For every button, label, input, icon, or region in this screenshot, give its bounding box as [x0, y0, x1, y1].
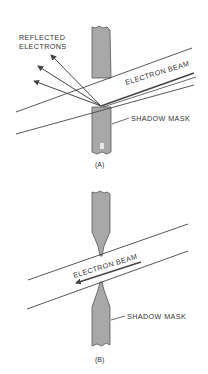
figure-a: REFLECTED ELECTRONS ELECTRON BEAM SHADOW…: [16, 26, 196, 169]
mask-highlight: [100, 143, 104, 149]
figure-b: ELECTRON BEAM SHADOW MASK (B): [27, 191, 188, 364]
caption-b: (B): [95, 356, 104, 364]
shadow-mask-upper-b: [92, 191, 110, 256]
shadow-mask-upper-a: [92, 26, 111, 78]
mask-leader-line-b: [111, 316, 125, 320]
mask-leader-line-a: [112, 118, 129, 124]
caption-a: (A): [95, 161, 104, 169]
shadow-mask-label-a: SHADOW MASK: [131, 114, 190, 123]
electron-beam-label-a: ELECTRON BEAM: [124, 59, 190, 87]
shadow-mask-lower-b: [92, 282, 110, 346]
shadow-mask-diagram: REFLECTED ELECTRONS ELECTRON BEAM SHADOW…: [0, 0, 208, 374]
shadow-mask-label-b: SHADOW MASK: [127, 312, 186, 321]
reflected-electrons-label-1: REFLECTED: [19, 33, 65, 42]
reflected-electrons-label-2: ELECTRONS: [19, 42, 67, 51]
